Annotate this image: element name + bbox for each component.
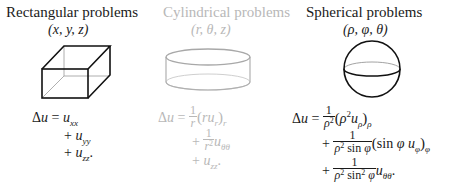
spherical-equation-line-2: + 1ρ2 sin φ(sin φ uφ)φ xyxy=(322,131,430,158)
spherical-equation-line-3: + 1ρ2 sin2 φuθθ. xyxy=(322,158,395,185)
